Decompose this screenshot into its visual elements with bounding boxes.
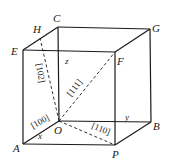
vertex-label-O: O	[54, 124, 62, 136]
axis-label-x: x	[37, 131, 42, 141]
edge-AP	[23, 144, 115, 145]
vertex-label-C: C	[53, 12, 61, 24]
edge-OB	[59, 121, 151, 122]
vertex-label-B: B	[153, 120, 160, 132]
edge-EF	[23, 50, 115, 52]
edge-PB	[115, 122, 151, 145]
cube-diagram: C H G E F O B A P z y x [102] [111] [100…	[0, 0, 171, 168]
edge-CG	[58, 27, 150, 29]
vertex-label-E: E	[10, 45, 18, 57]
direction-label-111: [111]	[65, 77, 84, 98]
vertex-label-F: F	[116, 55, 124, 67]
vertex-label-G: G	[152, 22, 160, 34]
edge-FG	[115, 29, 150, 52]
axis-label-z: z	[64, 56, 69, 66]
axis-label-y: y	[124, 112, 129, 122]
edge-CO	[58, 27, 59, 121]
vertex-label-A: A	[12, 142, 20, 154]
vertex-label-P: P	[111, 148, 119, 160]
direction-label-110: [110]	[90, 121, 112, 137]
edge-GB	[150, 29, 151, 122]
direction-label-102: [102]	[34, 63, 47, 84]
cube-svg: C H G E F O B A P z y x [102] [111] [100…	[0, 0, 171, 168]
vertex-label-H: H	[32, 23, 42, 35]
